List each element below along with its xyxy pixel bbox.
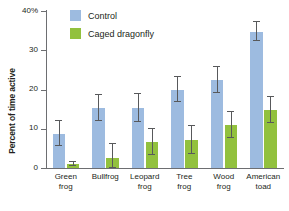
error-bar bbox=[59, 121, 60, 146]
error-bar-cap-bottom bbox=[188, 153, 195, 154]
error-bar bbox=[191, 126, 192, 154]
bar-group bbox=[211, 11, 238, 168]
error-bar-cap-top bbox=[55, 120, 62, 121]
y-axis-tick-label: 20 bbox=[29, 85, 38, 93]
error-bar bbox=[177, 77, 178, 103]
error-bar-cap-bottom bbox=[213, 92, 220, 93]
y-axis-tick-label: 0 bbox=[34, 164, 38, 172]
error-bar bbox=[270, 97, 271, 123]
error-bar-cap-top bbox=[69, 161, 76, 162]
legend-label: Control bbox=[88, 11, 117, 21]
error-bar-cap-bottom bbox=[134, 121, 141, 122]
x-axis-label-line: Green bbox=[46, 172, 86, 182]
bar-control bbox=[250, 32, 263, 168]
chart-legend: ControlCaged dragonfly bbox=[70, 8, 154, 44]
error-bar-cap-bottom bbox=[55, 145, 62, 146]
x-axis-label: Treefrog bbox=[165, 172, 205, 191]
y-axis-title: Percent of time active bbox=[7, 41, 17, 181]
x-axis-label: Americantoad bbox=[244, 172, 284, 191]
x-axis-label-line: frog bbox=[125, 182, 165, 192]
error-bar-cap-top bbox=[213, 66, 220, 67]
x-axis-label-line: frog bbox=[46, 182, 86, 192]
x-axis-label-line: frog bbox=[204, 182, 244, 192]
x-axis-label: Leopardfrog bbox=[125, 172, 165, 191]
error-bar-cap-bottom bbox=[69, 165, 76, 166]
x-axis-label-line: toad bbox=[244, 182, 284, 192]
x-axis-label-line: frog bbox=[165, 182, 205, 192]
error-bar-cap-top bbox=[188, 125, 195, 126]
legend-item: Control bbox=[70, 8, 154, 23]
error-bar bbox=[231, 112, 232, 138]
x-axis-label-line: Tree bbox=[165, 172, 205, 182]
x-axis-label-line: Leopard bbox=[125, 172, 165, 182]
error-bar-cap-top bbox=[174, 76, 181, 77]
legend-swatch-icon bbox=[70, 10, 81, 21]
x-axis-line bbox=[46, 168, 284, 169]
error-bar-cap-bottom bbox=[267, 122, 274, 123]
bar-group bbox=[171, 11, 198, 168]
x-axis-label: Greenfrog bbox=[46, 172, 86, 191]
error-bar-cap-top bbox=[134, 93, 141, 94]
error-bar-cap-top bbox=[95, 94, 102, 95]
legend-item: Caged dragonfly bbox=[70, 26, 154, 41]
bar-control bbox=[211, 80, 224, 168]
bar-chart: Percent of time active 40%3020100 Greenf… bbox=[0, 0, 289, 211]
error-bar bbox=[152, 129, 153, 155]
y-axis-tick-label: 30 bbox=[29, 46, 38, 54]
y-axis-tick-label: 10 bbox=[29, 124, 38, 132]
legend-swatch-icon bbox=[70, 28, 81, 39]
x-axis-label-line: Wood bbox=[204, 172, 244, 182]
y-axis-tick bbox=[41, 168, 46, 169]
error-bar-cap-top bbox=[253, 21, 260, 22]
error-bar bbox=[217, 67, 218, 93]
legend-label: Caged dragonfly bbox=[88, 29, 154, 39]
error-bar-cap-bottom bbox=[253, 40, 260, 41]
x-axis-label: Bullfrog bbox=[86, 172, 126, 182]
error-bar-cap-bottom bbox=[109, 167, 116, 168]
bar-group bbox=[250, 11, 277, 168]
error-bar-cap-top bbox=[267, 96, 274, 97]
x-axis-label-line: Bullfrog bbox=[86, 172, 126, 182]
error-bar bbox=[256, 22, 257, 41]
x-axis-label: Woodfrog bbox=[204, 172, 244, 191]
error-bar bbox=[98, 95, 99, 121]
error-bar bbox=[138, 94, 139, 122]
error-bar-cap-bottom bbox=[95, 120, 102, 121]
error-bar-cap-top bbox=[227, 111, 234, 112]
error-bar bbox=[112, 144, 113, 168]
error-bar-cap-bottom bbox=[227, 137, 234, 138]
x-axis-label-line: American bbox=[244, 172, 284, 182]
error-bar-cap-bottom bbox=[148, 154, 155, 155]
error-bar-cap-top bbox=[109, 143, 116, 144]
error-bar-cap-top bbox=[148, 128, 155, 129]
y-axis-tick-label: 40% bbox=[22, 7, 38, 15]
error-bar-cap-bottom bbox=[174, 101, 181, 102]
